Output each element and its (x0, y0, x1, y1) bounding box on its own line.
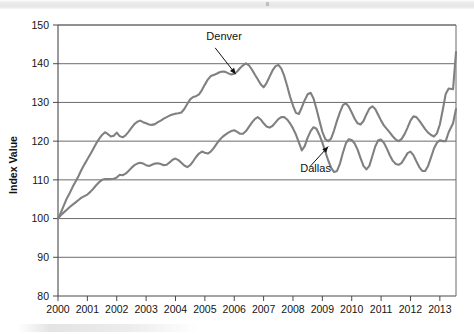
x-axis-ticks (58, 296, 440, 301)
x-tick-label: 2009 (311, 303, 335, 315)
annotation-label-dallas: Dallas (300, 162, 331, 174)
y-tick-label: 140 (31, 57, 49, 69)
y-tick-label: 130 (31, 96, 49, 108)
x-axis-tick-labels: 2000200120022003200420052006200720082009… (46, 303, 451, 315)
x-tick-label: 2002 (105, 303, 129, 315)
x-tick-label: 2008 (281, 303, 305, 315)
y-tick-label: 120 (31, 135, 49, 147)
x-tick-label: 2000 (46, 303, 70, 315)
scan-smudge (18, 324, 198, 332)
y-tick-label: 110 (32, 174, 49, 186)
x-tick-label: 2011 (370, 303, 393, 315)
series-line-denver (58, 52, 456, 218)
y-axis-ticks (53, 25, 58, 296)
plot-frame (58, 25, 456, 296)
y-tick-label: 80 (37, 290, 49, 302)
y-axis-title: Index Value (7, 136, 19, 194)
x-tick-label: 2003 (134, 303, 158, 315)
y-tick-label: 90 (37, 251, 49, 263)
x-tick-label: 2005 (193, 303, 217, 315)
annotation-label-denver: Denver (206, 30, 242, 42)
x-tick-label: 2013 (428, 303, 452, 315)
y-axis-tick-labels: 8090100110120130140150 (31, 19, 49, 302)
data-series-group (58, 52, 456, 218)
series-annotations: DenverDallas (206, 30, 331, 174)
x-tick-label: 2007 (252, 303, 276, 315)
x-tick-label: 2012 (399, 303, 423, 315)
y-tick-label: 150 (31, 19, 49, 31)
y-tick-label: 100 (31, 212, 49, 224)
gridlines (58, 25, 456, 257)
x-tick-label: 2010 (340, 303, 364, 315)
x-tick-label: 2001 (76, 303, 100, 315)
chart-canvas: 8090100110120130140150 20002001200220032… (0, 0, 474, 334)
line-chart: 8090100110120130140150 20002001200220032… (0, 0, 474, 334)
series-line-dallas (58, 109, 456, 219)
x-tick-label: 2004 (164, 303, 188, 315)
x-tick-label: 2006 (223, 303, 247, 315)
